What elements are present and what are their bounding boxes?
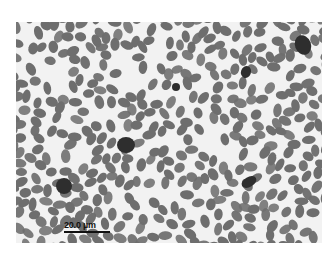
red-blood-cell [16,158,27,168]
red-blood-cell [104,82,120,96]
red-blood-cell [208,154,219,168]
red-blood-cell [309,64,322,77]
red-blood-cell [93,94,106,110]
red-blood-cell [238,76,247,90]
red-blood-cell [174,104,187,119]
red-blood-cell [38,225,53,236]
red-blood-cell [242,191,250,204]
red-blood-cell [275,188,289,203]
red-blood-cell [16,119,27,130]
red-blood-cell [112,232,128,243]
red-blood-cell [192,122,206,137]
red-blood-cell [130,120,143,130]
red-blood-cell [321,58,322,70]
red-blood-cell [48,241,61,243]
red-blood-cell [44,55,57,66]
red-blood-cell [191,197,205,208]
red-blood-cell [43,184,53,198]
red-blood-cell [196,90,212,106]
red-blood-cell [158,231,173,241]
scale-bar-label: 20.0 µm [64,221,112,230]
red-blood-cell [192,106,204,119]
red-blood-cell [111,219,127,235]
red-blood-cell [66,232,79,243]
red-blood-cell [253,42,268,54]
red-blood-cell [249,107,264,121]
red-blood-cell [29,171,42,186]
red-blood-cell [182,133,193,146]
red-blood-cell [121,211,133,221]
red-blood-cell [19,187,32,198]
red-blood-cell [110,151,123,165]
red-blood-cell [92,193,103,207]
red-blood-cell [300,169,314,184]
red-blood-cell [74,31,87,42]
red-blood-cell [284,163,297,173]
red-blood-cell [99,59,108,71]
red-blood-cell [210,184,220,198]
red-blood-cell [164,94,178,110]
red-blood-cell [45,124,59,139]
red-blood-cell [27,41,39,55]
nucleated-cell [56,178,72,194]
red-blood-cell [16,168,27,176]
red-blood-cell [253,27,266,38]
red-blood-cell [212,22,223,35]
red-blood-cell [165,36,174,49]
red-blood-cell [295,204,305,218]
red-blood-cell [28,197,37,212]
red-blood-cell [294,240,303,243]
red-blood-cell [199,214,211,230]
red-blood-cell [61,149,71,163]
red-blood-cell [138,60,148,74]
red-blood-cell [105,136,119,151]
red-blood-cell [16,51,23,63]
red-blood-cell [196,53,206,67]
red-blood-cell [302,135,317,145]
red-blood-cell [107,22,122,28]
red-blood-cell [176,39,185,51]
red-blood-cell [221,218,236,233]
red-blood-cell [16,175,29,189]
red-blood-cell [16,132,27,144]
red-blood-cell [188,90,199,104]
nucleated-cell [117,137,135,153]
red-blood-cell [135,157,147,172]
red-blood-cell [38,196,53,207]
red-blood-cell [295,197,309,205]
red-blood-cell [142,177,156,190]
scale-bar: 20.0 µm [64,221,112,233]
red-blood-cell [130,22,146,26]
red-blood-cell [134,88,147,104]
red-blood-cell [107,96,117,109]
red-blood-cell [25,22,34,24]
red-blood-cell [91,22,101,25]
cells-layer [16,22,322,243]
red-blood-cell [55,128,69,140]
red-blood-cell [16,22,22,35]
red-blood-cell [185,145,199,154]
red-blood-cell [210,94,222,105]
red-blood-cell [16,38,25,49]
red-blood-cell [306,208,320,218]
red-blood-cell [24,61,38,77]
red-blood-cell [279,205,293,219]
red-blood-cell [319,49,322,63]
red-blood-cell [172,161,187,175]
red-blood-cell [145,22,158,38]
red-blood-cell [219,133,230,147]
micrograph-image: 20.0 µm [16,22,322,243]
red-blood-cell [18,105,31,115]
red-blood-cell [49,22,60,31]
red-blood-cell [160,78,173,92]
red-blood-cell [31,184,44,194]
red-blood-cell [77,107,89,116]
red-blood-cell [319,140,322,155]
red-blood-cell [42,81,52,95]
red-blood-cell [32,96,43,109]
red-blood-cell [245,94,259,106]
scale-bar-line [64,231,110,233]
red-blood-cell [272,103,282,118]
nucleated-cell [172,83,180,91]
red-blood-cell [180,189,195,200]
